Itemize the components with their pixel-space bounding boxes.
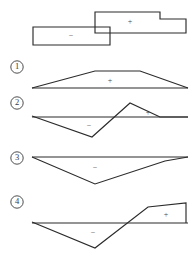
option-1-trapezoid-positive[interactable]: 1+ bbox=[11, 61, 188, 88]
positive-sign: + bbox=[108, 76, 113, 85]
figure-sheet: − + 1+2−+3−4−+ bbox=[0, 0, 194, 260]
negative-sign: − bbox=[87, 121, 92, 130]
prompt-positive-sign: + bbox=[128, 17, 133, 26]
option-shape-outline bbox=[32, 157, 188, 184]
option-number-label: 3 bbox=[15, 152, 19, 162]
negative-sign: − bbox=[91, 228, 96, 237]
diagram-canvas: − + 1+2−+3−4−+ bbox=[0, 0, 194, 260]
option-4-negative-triangle-then-rising-positive[interactable]: 4−+ bbox=[11, 196, 188, 248]
option-2-negative-then-positive-triangles[interactable]: 2−+ bbox=[11, 97, 188, 137]
options-group: 1+2−+3−4−+ bbox=[11, 61, 188, 248]
positive-sign: + bbox=[146, 108, 151, 117]
positive-sign: + bbox=[164, 210, 169, 219]
prompt-diagram: − + bbox=[33, 12, 186, 45]
option-number-label: 1 bbox=[15, 61, 19, 71]
prompt-negative-sign: − bbox=[69, 31, 74, 40]
option-number-label: 2 bbox=[15, 97, 19, 107]
negative-sign: − bbox=[93, 163, 98, 172]
option-3-downward-triangle-negative[interactable]: 3− bbox=[11, 152, 188, 184]
option-number-label: 4 bbox=[15, 196, 20, 206]
option-shape-outline bbox=[32, 103, 188, 137]
positive-stepped-rectangle bbox=[95, 12, 186, 33]
